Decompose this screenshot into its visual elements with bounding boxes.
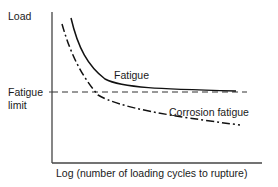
fatigue-limit-label-line2: limit (8, 99, 27, 111)
fatigue-curve-label: Fatigue (114, 69, 149, 81)
fatigue-curve (71, 18, 236, 91)
fatigue-limit-label-line1: Fatigue (8, 86, 43, 98)
x-axis-label: Log (number of loading cycles to rupture… (56, 167, 247, 179)
corrosion-fatigue-curve-label: Corrosion fatigue (169, 106, 249, 118)
y-axis-label: Load (8, 10, 31, 22)
